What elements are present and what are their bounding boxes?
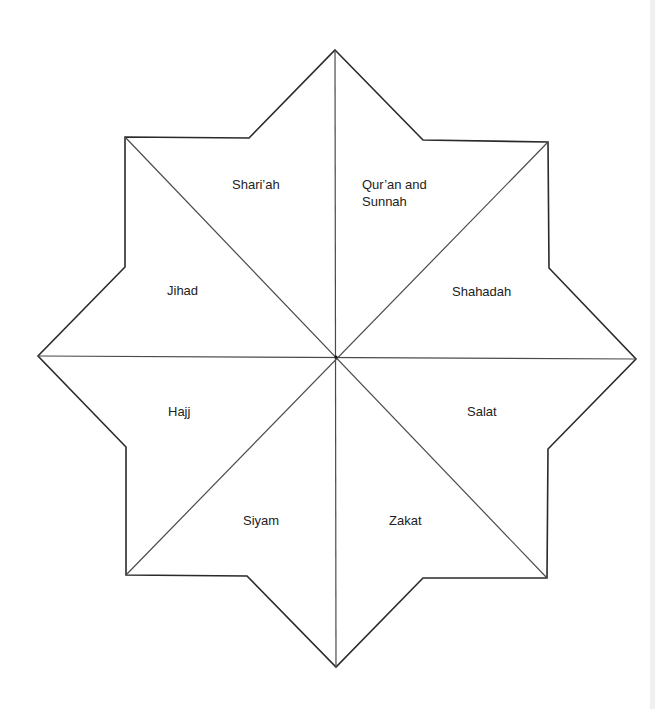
segment-label-salat: Salat: [467, 403, 497, 420]
center-point: [334, 355, 337, 358]
segment-label-jihad: Jihad: [167, 282, 198, 299]
segment-label-quran-sunnah: Qur’an and Sunnah: [362, 176, 427, 210]
star-diagram: [0, 0, 655, 709]
segment-label-siyam: Siyam: [243, 512, 279, 529]
segment-label-hajj: Hajj: [168, 403, 190, 420]
segment-label-zakat: Zakat: [389, 512, 422, 529]
segment-label-sharia: Shari’ah: [232, 176, 280, 193]
segment-label-shahadah: Shahadah: [452, 283, 511, 300]
